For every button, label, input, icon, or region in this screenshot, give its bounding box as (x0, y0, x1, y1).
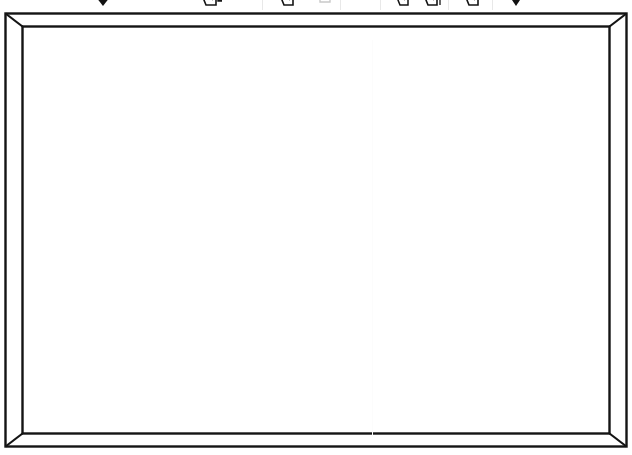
frame-graphic (0, 10, 632, 450)
whiteboard-frame[interactable] (0, 10, 632, 450)
toolbar-separator (492, 0, 493, 10)
toolbar-separator (262, 0, 263, 10)
toolbar-separator (448, 0, 449, 10)
toolbar-separator (380, 0, 381, 10)
toolbar-separator (340, 0, 341, 10)
app-root (0, 0, 632, 455)
frame-inner-edge (23, 27, 610, 434)
panel-seam (372, 40, 373, 435)
